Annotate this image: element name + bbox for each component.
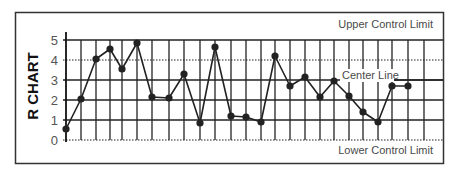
data-point-marker (106, 45, 113, 52)
data-point-marker (133, 39, 140, 46)
data-point-marker (316, 93, 323, 100)
y-tick-label: 3 (51, 73, 58, 88)
data-point-marker (242, 113, 249, 120)
upper-control-limit-label: Upper Control Limit (338, 18, 433, 30)
data-point-marker (404, 82, 411, 89)
data-point-marker (374, 118, 381, 125)
data-point-marker (388, 82, 395, 89)
r-chart: R CHART 012345 Upper Control Limit Cente… (0, 0, 458, 174)
data-point-marker (359, 108, 366, 115)
data-point-marker (165, 94, 172, 101)
y-tick-label: 0 (51, 133, 58, 148)
r-chart-svg: R CHART 012345 Upper Control Limit Cente… (0, 0, 458, 174)
data-point-marker (286, 82, 293, 89)
lower-control-limit-label: Lower Control Limit (338, 144, 433, 156)
data-point-marker (227, 112, 234, 119)
y-tick-label: 1 (51, 113, 58, 128)
data-point-marker (211, 43, 218, 50)
data-point-marker (271, 52, 278, 59)
data-point-marker (330, 77, 337, 84)
data-point-marker (345, 92, 352, 99)
data-point-marker (148, 93, 155, 100)
data-point-marker (77, 95, 84, 102)
data-point-marker (196, 119, 203, 126)
center-line-label: Center Line (342, 69, 399, 81)
data-point-marker (257, 118, 264, 125)
data-point-marker (180, 70, 187, 77)
y-tick-label: 2 (51, 93, 58, 108)
data-point-marker (62, 125, 69, 132)
y-tick-label: 5 (51, 33, 58, 48)
data-point-marker (92, 55, 99, 62)
data-point-marker (118, 65, 125, 72)
y-tick-label: 4 (51, 53, 58, 68)
chart-frame (16, 13, 444, 164)
y-axis-title: R CHART (24, 52, 41, 120)
data-point-marker (301, 73, 308, 80)
